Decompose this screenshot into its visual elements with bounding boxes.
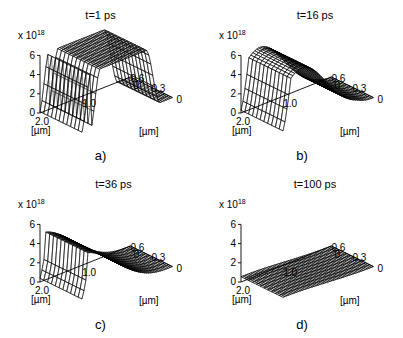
svg-text:0.6: 0.6 xyxy=(130,242,144,253)
panel-d-zscale: x 1018 xyxy=(219,199,246,210)
svg-text:1.0: 1.0 xyxy=(82,267,96,278)
figure-grid: 02462.01.000.60.30 t=1 ps x 1018 [µm] [µ… xyxy=(0,0,403,338)
zscale-mantissa: x 10 xyxy=(219,199,238,210)
panel-c-xlabel: [µm] xyxy=(31,294,51,305)
panel-d: 02462.01.000.60.30 t=100 ps x 1018 [µm] … xyxy=(201,169,403,338)
svg-text:2: 2 xyxy=(230,88,236,99)
zscale-exponent: 18 xyxy=(238,198,246,205)
panel-b-caption: b) xyxy=(201,148,403,163)
svg-text:4: 4 xyxy=(29,69,35,80)
svg-text:6: 6 xyxy=(230,219,236,230)
surface-plot-b: 02462.01.000.60.30 xyxy=(201,0,403,169)
svg-text:6: 6 xyxy=(230,50,236,61)
surface-plot-d: 02462.01.000.60.30 xyxy=(201,169,403,338)
panel-d-ylabel: [µm] xyxy=(340,295,360,306)
zscale-exponent: 18 xyxy=(37,29,45,36)
panel-a-xlabel: [µm] xyxy=(31,125,51,136)
panel-d-caption: d) xyxy=(201,317,403,332)
surface-plot-a: 02462.01.000.60.30 xyxy=(0,0,201,169)
zscale-mantissa: x 10 xyxy=(18,199,37,210)
surface-plot-c: 02462.01.000.60.30 xyxy=(0,169,201,338)
zscale-mantissa: x 10 xyxy=(18,30,37,41)
panel-a-title: t=1 ps xyxy=(0,9,201,22)
svg-text:4: 4 xyxy=(230,69,236,80)
svg-text:6: 6 xyxy=(29,219,35,230)
panel-b-title: t=16 ps xyxy=(201,9,403,22)
panel-a-zscale: x 1018 xyxy=(18,30,45,41)
svg-text:2: 2 xyxy=(29,257,35,268)
svg-text:0.6: 0.6 xyxy=(331,73,345,84)
svg-text:0.3: 0.3 xyxy=(151,83,165,94)
panel-c-zscale: x 1018 xyxy=(18,199,45,210)
svg-text:1.0: 1.0 xyxy=(283,267,297,278)
svg-text:4: 4 xyxy=(230,238,236,249)
svg-text:0: 0 xyxy=(378,94,384,105)
svg-text:2: 2 xyxy=(29,88,35,99)
panel-b: 02462.01.000.60.30 t=16 ps x 1018 [µm] [… xyxy=(201,0,403,169)
svg-text:0.3: 0.3 xyxy=(352,83,366,94)
zscale-exponent: 18 xyxy=(238,29,246,36)
zscale-mantissa: x 10 xyxy=(219,30,238,41)
panel-b-ylabel: [µm] xyxy=(340,126,360,137)
svg-text:6: 6 xyxy=(29,50,35,61)
zscale-exponent: 18 xyxy=(37,198,45,205)
panel-a: 02462.01.000.60.30 t=1 ps x 1018 [µm] [µ… xyxy=(0,0,201,169)
svg-text:0: 0 xyxy=(177,263,183,274)
panel-b-zscale: x 1018 xyxy=(219,30,246,41)
panel-c-ylabel: [µm] xyxy=(139,295,159,306)
panel-d-title: t=100 ps xyxy=(201,178,403,191)
svg-text:2: 2 xyxy=(230,257,236,268)
panel-c-caption: c) xyxy=(0,317,201,332)
panel-a-caption: a) xyxy=(0,148,201,163)
svg-text:0.6: 0.6 xyxy=(130,73,144,84)
panel-c: 02462.01.000.60.30 t=36 ps x 1018 [µm] [… xyxy=(0,169,201,338)
svg-text:0: 0 xyxy=(378,263,384,274)
svg-text:0.3: 0.3 xyxy=(151,252,165,263)
panel-b-xlabel: [µm] xyxy=(232,125,252,136)
svg-text:0: 0 xyxy=(177,94,183,105)
svg-text:1.0: 1.0 xyxy=(283,98,297,109)
svg-text:0.3: 0.3 xyxy=(352,252,366,263)
svg-text:1.0: 1.0 xyxy=(82,98,96,109)
svg-text:4: 4 xyxy=(29,238,35,249)
svg-text:0.6: 0.6 xyxy=(331,242,345,253)
panel-a-ylabel: [µm] xyxy=(139,126,159,137)
panel-c-title: t=36 ps xyxy=(0,178,201,191)
panel-d-xlabel: [µm] xyxy=(232,294,252,305)
